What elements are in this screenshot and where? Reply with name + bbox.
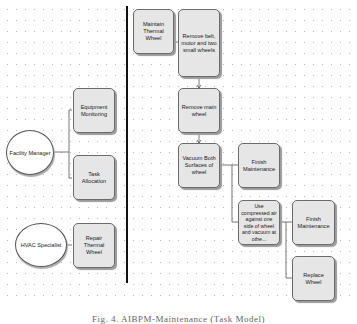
task-label: Replace Wheel — [295, 272, 332, 286]
role-facility-manager[interactable]: Facility Manager — [6, 130, 54, 175]
task-label: Finish Maintenance — [241, 159, 277, 173]
task-maintain-thermal-wheel[interactable]: Maintain Thermal Wheel — [133, 9, 174, 54]
task-finish-maintenance-1[interactable]: Finish Maintenance — [238, 143, 280, 188]
figure-caption: Fig. 4. AIBPM-Maintenance (Task Model) — [0, 314, 357, 324]
task-remove-main-wheel[interactable]: Remove main wheel — [178, 88, 220, 133]
role-label: Facility Manager — [9, 150, 50, 156]
role-hvac-specialist[interactable]: HVAC Specialist — [15, 223, 67, 267]
task-finish-maintenance-2[interactable]: Finish Maintenance — [292, 200, 335, 245]
task-label: Use compressed air against one side of w… — [241, 203, 277, 242]
role-label: HVAC Specialist — [21, 242, 62, 248]
task-label: Vacuum Both Surfaces of wheel — [181, 155, 217, 176]
swimlane-divider — [126, 6, 128, 283]
task-label: Task Allocation — [76, 171, 112, 185]
task-label: Remove belt, motor and two small wheels — [181, 33, 217, 54]
task-remove-belt[interactable]: Remove belt, motor and two small wheels — [178, 9, 220, 77]
task-task-allocation[interactable]: Task Allocation — [73, 155, 115, 200]
task-label: Finish Maintenance — [295, 216, 332, 230]
task-vacuum-both-surfaces[interactable]: Vacuum Both Surfaces of wheel — [178, 143, 220, 188]
task-replace-wheel[interactable]: Replace Wheel — [292, 256, 335, 301]
task-label: Remove main wheel — [181, 104, 217, 118]
task-equipment-monitoring[interactable]: Equipment Monitoring — [73, 88, 115, 133]
task-repair-thermal-wheel[interactable]: Repair Thermal Wheel — [73, 223, 115, 268]
task-use-compressed-air[interactable]: Use compressed air against one side of w… — [238, 200, 280, 245]
task-label: Repair Thermal Wheel — [76, 235, 112, 256]
task-label: Equipment Monitoring — [76, 104, 112, 118]
task-label: Maintain Thermal Wheel — [136, 21, 171, 42]
